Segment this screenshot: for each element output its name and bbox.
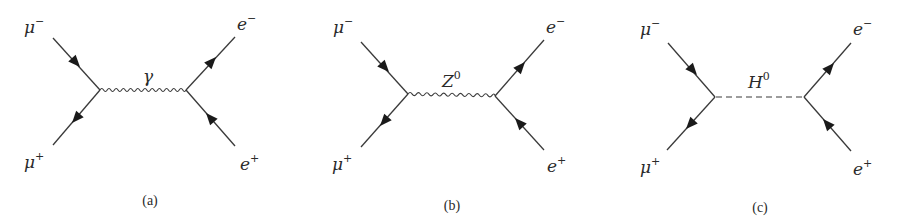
diagram-c: μ− μ+ e− e+ H0 (c)	[640, 17, 872, 216]
label-mediator-gamma: γ	[143, 66, 154, 86]
label-mu-plus: μ+	[332, 152, 352, 174]
feynman-diagram-figure: μ− μ+ e− e+ γ (a) μ− μ+ e−	[0, 0, 907, 224]
diagram-b: μ− μ+ e− e+ Z0 (b)	[332, 15, 566, 214]
caption-a: (a)	[142, 193, 158, 209]
label-e-minus: e−	[853, 17, 872, 39]
photon-propagator	[100, 89, 186, 92]
label-e-minus: e−	[237, 12, 256, 34]
label-e-plus: e+	[240, 152, 259, 174]
label-mu-minus: μ−	[640, 17, 660, 39]
label-mu-minus: μ−	[24, 15, 44, 37]
caption-c: (c)	[752, 200, 768, 216]
label-mu-plus: μ+	[640, 155, 660, 177]
label-e-minus: e−	[546, 15, 565, 37]
diagram-a: μ− μ+ e− e+ γ (a)	[24, 12, 259, 209]
caption-b: (b)	[444, 198, 461, 214]
label-e-plus: e+	[853, 157, 872, 179]
label-mu-minus: μ−	[333, 15, 353, 37]
label-e-plus: e+	[547, 154, 566, 176]
z-boson-propagator	[408, 93, 495, 97]
label-mu-plus: μ+	[24, 150, 44, 172]
label-mediator-h0: H0	[747, 70, 770, 92]
label-mediator-z0: Z0	[441, 69, 461, 91]
